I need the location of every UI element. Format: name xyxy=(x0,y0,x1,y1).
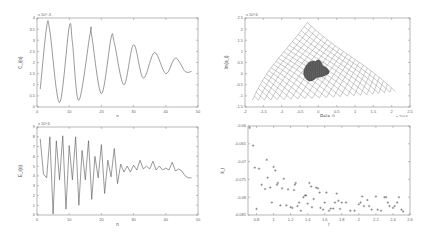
y-tick-label: -0.065 xyxy=(235,141,247,146)
x-tick-label: 1.4 xyxy=(305,217,311,222)
mesh-plot-complex-plane: -2-1.5-1-0.500.511.522.5-1.5-1-0.500.511… xyxy=(214,0,428,117)
axes-frame xyxy=(248,126,410,215)
y-axis-label: C_i(n) xyxy=(18,56,23,69)
series-line xyxy=(40,21,191,103)
y-axis-label: E_i(n) xyxy=(18,165,23,178)
x-tick-label: -0.5 xyxy=(297,109,305,114)
x-tick-label: 0 xyxy=(36,109,39,114)
x-axis-label: r xyxy=(328,222,330,227)
y-tick-label: 0.5 xyxy=(237,60,243,65)
y-multiplier: x 10^4 xyxy=(38,121,50,126)
y-tick-label: 4 xyxy=(33,15,36,20)
x-tick-label: 1 xyxy=(354,109,357,114)
x-tick-label: 40 xyxy=(164,217,169,222)
line-chart-e: 010203040500123456789nE_i(n)x 10^4 xyxy=(0,117,214,235)
x-tick-label: 0.8 xyxy=(254,217,260,222)
y-tick-label: 2 xyxy=(33,193,36,198)
y-tick-label: 1 xyxy=(241,49,244,54)
axes-frame xyxy=(245,18,410,107)
y-tick-label: 7 xyxy=(33,144,36,149)
y-tick-label: 1 xyxy=(33,82,36,87)
y-tick-label: -1 xyxy=(239,93,243,98)
x-tick-label: 50 xyxy=(196,109,201,114)
y-axis-label: k_i xyxy=(220,168,225,174)
x-tick-label: 1 xyxy=(272,217,275,222)
x-tick-label: 50 xyxy=(196,217,201,222)
y-tick-label: 3 xyxy=(33,38,36,43)
center-cluster xyxy=(304,60,330,81)
x-tick-label: 2.5 xyxy=(407,109,413,114)
axes-frame xyxy=(37,18,198,107)
y-multiplier: x 10^4 xyxy=(246,12,258,17)
x-tick-label: 20 xyxy=(99,109,104,114)
y-tick-label: 1.5 xyxy=(29,71,35,76)
x-tick-label: 20 xyxy=(99,217,104,222)
y-tick-label: -0.07 xyxy=(237,159,247,164)
y-tick-label: 1.5 xyxy=(237,38,243,43)
x-tick-label: 40 xyxy=(164,109,169,114)
y-tick-label: -0.075 xyxy=(235,177,247,182)
chart-panel-bottom-right: 0.811.21.41.61.822.22.42.6-0.085-0.08-0.… xyxy=(214,117,428,235)
x-axis-label: n xyxy=(116,222,119,227)
x-tick-label: 0 xyxy=(36,217,39,222)
axes-frame xyxy=(37,127,198,215)
y-tick-label: 0 xyxy=(241,71,244,76)
y-axis-label: Im(a_i) xyxy=(224,55,229,70)
scatter-chart-k: 0.811.21.41.61.822.22.42.6-0.085-0.08-0.… xyxy=(214,117,428,235)
chart-panel-top-left: 0102030405000.511.522.533.54nC_i(n)x 10^… xyxy=(0,0,214,117)
y-tick-label: 2.5 xyxy=(29,49,35,54)
chart-panel-top-right: -2-1.5-1-0.500.511.522.5-1.5-1-0.500.511… xyxy=(214,0,428,117)
y-multiplier: x 10^-3 xyxy=(38,12,52,17)
x-tick-label: 30 xyxy=(131,217,136,222)
y-tick-label: -1.5 xyxy=(236,104,244,109)
y-tick-label: -0.08 xyxy=(237,195,247,200)
x-tick-label: 2.2 xyxy=(373,217,379,222)
y-tick-label: 9 xyxy=(33,124,36,129)
wireframe-mesh xyxy=(252,23,395,101)
series-line xyxy=(40,136,191,214)
y-tick-label: 2.5 xyxy=(237,15,243,20)
y-tick-label: 2 xyxy=(241,27,244,32)
y-tick-label: 2 xyxy=(33,60,36,65)
y-tick-label: 1 xyxy=(33,203,36,208)
y-tick-label: -0.06 xyxy=(237,123,247,128)
x-tick-label: 10 xyxy=(67,217,72,222)
x-tick-label: -1.5 xyxy=(260,109,268,114)
x-tick-label: 1.5 xyxy=(371,109,377,114)
x-tick-label: 30 xyxy=(131,109,136,114)
y-tick-label: -0.5 xyxy=(236,82,244,87)
x-tick-label: -1 xyxy=(280,109,284,114)
y-tick-label: 5 xyxy=(33,164,36,169)
y-tick-label: 8 xyxy=(33,134,36,139)
x-tick-label: 2 xyxy=(391,109,394,114)
line-chart-c: 0102030405000.511.522.533.54nC_i(n)x 10^… xyxy=(0,0,214,117)
scatter-points xyxy=(249,127,405,213)
x-tick-label: 2.4 xyxy=(390,217,396,222)
y-tick-label: -0.085 xyxy=(235,212,247,217)
x-tick-label: 2 xyxy=(358,217,361,222)
y-tick-label: 3.5 xyxy=(29,27,35,32)
y-tick-label: 4 xyxy=(33,173,36,178)
x-tick-label: 10 xyxy=(67,109,72,114)
y-tick-label: 3 xyxy=(33,183,36,188)
y-tick-label: 0.5 xyxy=(29,93,35,98)
chart-panel-bottom-left: 010203040500123456789nE_i(n)x 10^4 xyxy=(0,117,214,235)
x-tick-label: 2.6 xyxy=(407,217,413,222)
y-tick-label: 6 xyxy=(33,154,36,159)
x-tick-label: 1.2 xyxy=(288,217,294,222)
x-tick-label: -2 xyxy=(243,109,247,114)
x-tick-label: 1.8 xyxy=(339,217,345,222)
